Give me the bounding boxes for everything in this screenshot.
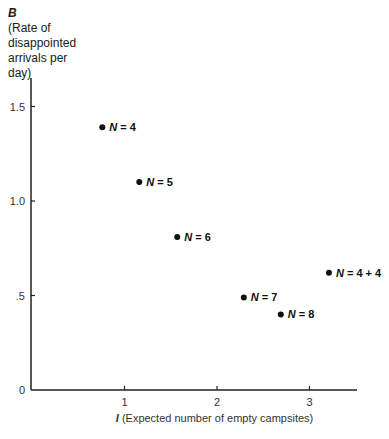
data-point: N = 7 (241, 291, 278, 303)
x-tick-label: 3 (306, 396, 312, 408)
point-label: N = 8 (288, 308, 315, 320)
data-point: N = 6 (174, 231, 211, 243)
point-marker (136, 179, 142, 185)
x-axis-description: (Expected number of empty campsites) (122, 412, 313, 424)
x-axis-variable: I (116, 412, 119, 424)
point-marker (326, 270, 332, 276)
point-marker (241, 294, 247, 300)
x-tick-label: 1 (121, 396, 127, 408)
point-label: N = 5 (146, 176, 173, 188)
point-marker (278, 311, 284, 317)
data-point: N = 5 (136, 176, 173, 188)
point-label: N = 4 + 4 (336, 267, 382, 279)
data-point: N = 4 + 4 (326, 267, 382, 279)
data-point: N = 4 (99, 121, 136, 133)
scatter-plot: 0.51.01.5 123 N = 4N = 5N = 6N = 7N = 8N… (0, 0, 389, 439)
point-marker (99, 124, 105, 130)
point-label: N = 4 (109, 121, 136, 133)
y-tick-label: 1.5 (10, 101, 25, 113)
x-axis-label: I (Expected number of empty campsites) (0, 412, 389, 424)
data-point: N = 8 (278, 308, 315, 320)
point-marker (174, 234, 180, 240)
x-tick-label: 2 (214, 396, 220, 408)
y-tick-label: 1.0 (10, 195, 25, 207)
point-label: N = 6 (184, 231, 211, 243)
data-points: N = 4N = 5N = 6N = 7N = 8N = 4 + 4 (99, 121, 382, 320)
y-tick-label: 0 (19, 384, 25, 396)
point-label: N = 7 (251, 291, 278, 303)
y-tick-label: .5 (16, 290, 25, 302)
